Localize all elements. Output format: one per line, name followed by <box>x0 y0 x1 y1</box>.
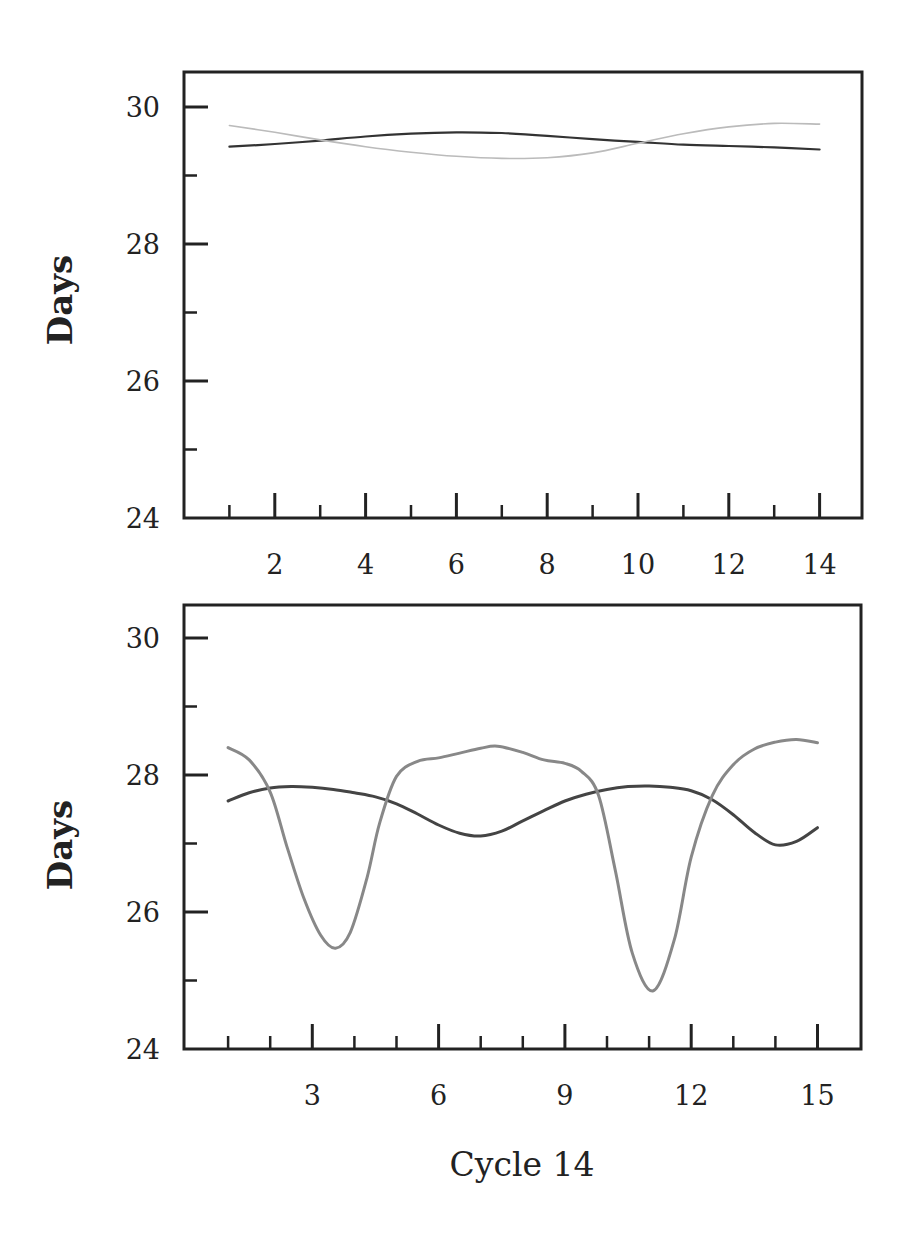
x-tick-label: 3 <box>304 1080 321 1111</box>
y-axis-ticks: 24262830 <box>126 92 208 534</box>
y-tick-label: 28 <box>126 229 160 260</box>
x-tick-label: 4 <box>357 549 374 580</box>
plot-frame <box>184 605 861 1049</box>
x-axis-title: Cycle 14 <box>450 1145 595 1184</box>
dark-series-line <box>229 132 819 149</box>
y-tick-label: 26 <box>126 897 160 928</box>
dark-series-line <box>228 786 817 845</box>
x-tick-label: 12 <box>674 1080 708 1111</box>
top-chart-panel: 24262830 2468101214 Days <box>40 72 862 580</box>
figure: 24262830 2468101214 Days 24262830 369121… <box>0 0 914 1257</box>
y-tick-label: 30 <box>126 623 160 654</box>
x-tick-label: 8 <box>539 549 556 580</box>
light-series-line <box>228 739 817 991</box>
y-tick-label: 24 <box>126 1034 160 1065</box>
x-tick-label: 15 <box>800 1080 834 1111</box>
plot-frame <box>184 72 862 518</box>
x-tick-label: 9 <box>556 1080 573 1111</box>
y-axis-ticks: 24262830 <box>126 623 208 1065</box>
y-tick-label: 28 <box>126 760 160 791</box>
x-tick-label: 6 <box>430 1080 447 1111</box>
bottom-chart-panel: 24262830 3691215 Days Cycle 14 <box>40 605 861 1184</box>
y-tick-label: 26 <box>126 366 160 397</box>
x-tick-label: 10 <box>621 549 655 580</box>
x-tick-label: 14 <box>802 549 836 580</box>
x-axis-ticks: 2468101214 <box>229 493 836 580</box>
y-tick-label: 30 <box>126 92 160 123</box>
y-axis-title: Days <box>40 800 80 890</box>
x-tick-label: 12 <box>712 549 746 580</box>
x-axis-ticks: 3691215 <box>228 1024 835 1111</box>
series-lines <box>229 123 819 158</box>
series-lines <box>228 739 817 991</box>
x-tick-label: 2 <box>266 549 283 580</box>
x-tick-label: 6 <box>448 549 465 580</box>
y-axis-title: Days <box>40 255 80 345</box>
y-tick-label: 24 <box>126 503 160 534</box>
